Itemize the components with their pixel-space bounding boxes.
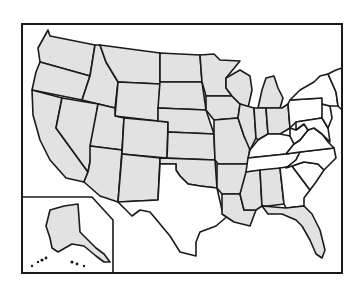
aleutian-island	[45, 257, 48, 260]
state-north-dakota[interactable]: North Dakota	[160, 53, 202, 82]
state-michigan[interactable]: Michigan	[258, 76, 283, 108]
us-map: WashingtonOregonCaliforniaIdahoNevadaMon…	[0, 0, 357, 292]
hawaii-island	[70, 260, 73, 263]
state-florida[interactable]: Florida	[262, 206, 325, 258]
state-new-mexico[interactable]: New Mexico	[118, 154, 160, 202]
aleutian-island	[37, 261, 39, 263]
state-south-dakota[interactable]: South Dakota	[158, 82, 206, 110]
state-alaska[interactable]	[46, 204, 110, 262]
us-map-svg: WashingtonOregonCaliforniaIdahoNevadaMon…	[0, 0, 357, 292]
hawaii-island	[76, 263, 79, 266]
aleutian-island	[31, 265, 33, 267]
state-ohio[interactable]: Ohio	[266, 104, 290, 134]
islands-layer	[31, 257, 85, 268]
state-kansas[interactable]: Kansas	[167, 132, 215, 160]
state-arizona[interactable]: Arizona	[84, 146, 122, 202]
state-colorado[interactable]: Colorado	[122, 118, 168, 158]
hawaii-island	[83, 265, 85, 267]
aleutian-island	[40, 258, 43, 261]
state-wyoming[interactable]: Wyoming	[115, 82, 160, 121]
